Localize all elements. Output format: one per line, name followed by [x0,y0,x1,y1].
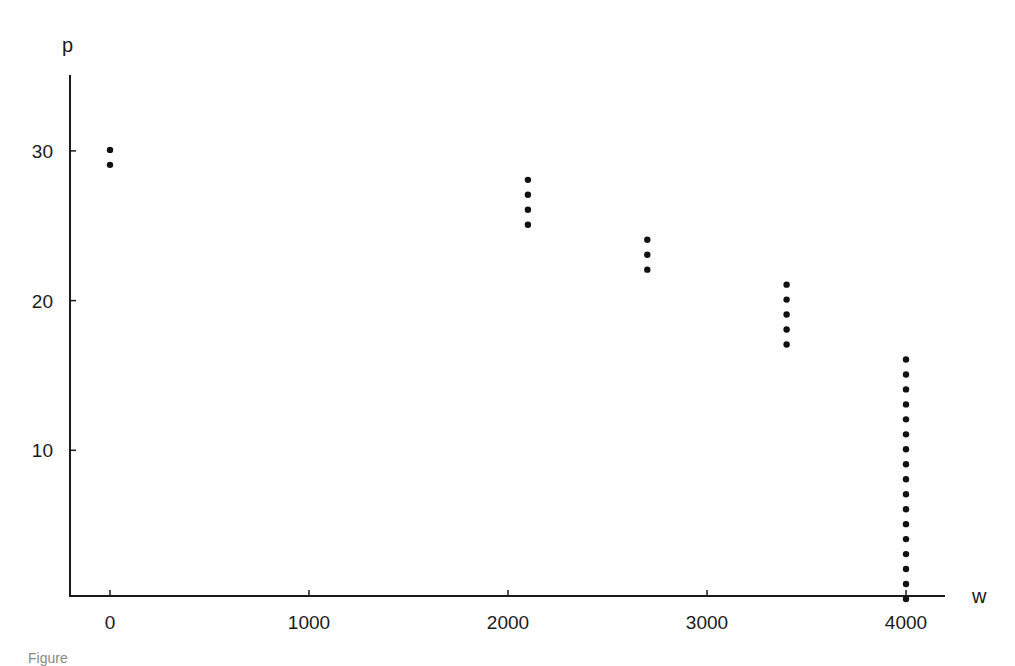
data-point [644,237,650,243]
data-point [903,386,909,392]
data-point [903,581,909,587]
data-point [783,341,789,347]
data-point [525,222,531,228]
x-tick-label: 4000 [885,612,927,633]
x-tick-label: 1000 [288,612,330,633]
data-point [903,476,909,482]
data-point [783,296,789,302]
data-point [903,566,909,572]
data-point [783,311,789,317]
x-tick-label: 2000 [487,612,529,633]
data-point [525,192,531,198]
data-point [903,431,909,437]
data-point [903,491,909,497]
x-axis-label: w [971,585,987,607]
data-point [107,162,113,168]
data-point [783,326,789,332]
axes [69,75,945,597]
data-point [903,506,909,512]
data-point [903,446,909,452]
y-tick-label: 30 [32,141,53,162]
x-tick-label: 0 [105,612,116,633]
data-point [644,251,650,257]
data-point [903,416,909,422]
data-point [525,177,531,183]
data-point [903,371,909,377]
y-axis-label: p [62,34,73,56]
y-tick-label: 10 [32,440,53,461]
data-point [903,401,909,407]
y-tick-label: 20 [32,291,53,312]
data-point [903,461,909,467]
data-point [903,521,909,527]
data-point [903,356,909,362]
data-points [107,147,909,603]
data-point [903,551,909,557]
figure-caption: Figure [28,650,68,666]
ticks: 01000200030004000102030 [32,141,927,633]
data-point [903,536,909,542]
data-point [783,281,789,287]
x-tick-label: 3000 [686,612,728,633]
data-point [644,266,650,272]
data-point [525,207,531,213]
data-point [903,596,909,602]
data-point [107,147,113,153]
